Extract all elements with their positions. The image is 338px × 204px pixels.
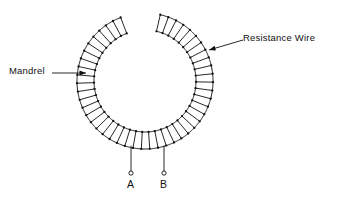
winding-junction-dot: [171, 123, 173, 125]
winding-junction-dot: [212, 81, 214, 83]
winding-junction-dot: [208, 56, 210, 58]
winding-junction-dot: [112, 20, 114, 22]
winding-junction-dot: [149, 148, 151, 150]
wire-turn: [149, 132, 150, 149]
wire-turn: [86, 107, 101, 116]
winding-junction-dot: [95, 127, 97, 129]
wire-turn: [110, 125, 119, 140]
winding-junction-dot: [159, 14, 161, 16]
winding-junction-dot: [123, 126, 125, 128]
winding-junction-dot: [94, 69, 96, 71]
wire-turn: [78, 89, 95, 92]
wire-turn: [77, 83, 94, 84]
winding-junction-dot: [141, 131, 143, 133]
winding-junction-dot: [107, 116, 109, 118]
winding-junction-dot: [189, 29, 191, 31]
winding-junction-dot: [95, 94, 97, 96]
winding-junction-dot: [173, 141, 175, 143]
winding-junction-dot: [181, 115, 183, 117]
winding-junction-dot: [147, 131, 149, 133]
wire-turn: [196, 88, 213, 90]
wire-turn: [174, 25, 184, 39]
winding-junction-dot: [195, 35, 197, 37]
wire-turn: [168, 21, 176, 36]
wire-turn: [99, 31, 110, 44]
winding-junction-dot: [157, 147, 159, 149]
wire-turn: [113, 21, 121, 36]
winding-junction-dot: [98, 57, 100, 59]
wire-turn: [133, 131, 136, 148]
winding-junction-dot: [188, 105, 190, 107]
wire-turn: [194, 94, 210, 98]
winding-junction-dot: [96, 63, 98, 65]
winding-junction-dot: [210, 64, 212, 66]
winding-junction-dot: [77, 65, 79, 67]
winding-junction-dot: [80, 57, 82, 59]
winding-junction-dot: [110, 42, 112, 44]
winding-junction-dot: [192, 62, 194, 64]
wire-turn: [177, 120, 188, 133]
winding-junction-dot: [83, 50, 85, 52]
winding-junction-dot: [161, 32, 163, 34]
wire-turn: [172, 124, 181, 138]
winding-junction-dot: [93, 82, 95, 84]
winding-junction-dot: [77, 90, 79, 92]
wire-turn: [183, 36, 196, 47]
winding-junction-dot: [100, 106, 102, 108]
wire-turn: [156, 15, 160, 32]
wire-turn: [193, 57, 209, 63]
terminal-node-b: [162, 171, 166, 175]
mandrel-arrow-icon: [80, 71, 87, 76]
winding-junction-dot: [101, 52, 103, 54]
winding-junction-dot: [79, 99, 81, 101]
winding-junction-dot: [180, 137, 182, 139]
winding-junction-dot: [135, 130, 137, 132]
winding-junction-dot: [199, 120, 201, 122]
winding-junction-dot: [189, 56, 191, 58]
terminal-node-a: [129, 171, 133, 175]
winding-junction-dot: [193, 93, 195, 95]
wire-turn: [179, 30, 190, 43]
winding-junction-dot: [93, 88, 95, 90]
winding-junction-dot: [124, 145, 126, 147]
winding-junction-dot: [154, 130, 156, 132]
resistance-wire-label: Resistance Wire: [243, 33, 315, 43]
winding-junction-dot: [98, 30, 100, 32]
wire-turn: [189, 106, 204, 114]
wire-turn: [182, 116, 194, 128]
resistance-coil: [76, 14, 214, 150]
winding-junction-dot: [116, 142, 118, 144]
winding-junction-dot: [185, 110, 187, 112]
winding-junction-dot: [176, 119, 178, 121]
wire-turn: [117, 127, 124, 142]
winding-junction-dot: [105, 47, 107, 49]
winding-junction-dot: [182, 24, 184, 26]
winding-junction-dot: [117, 123, 119, 125]
winding-junction-dot: [87, 42, 89, 44]
wire-turn: [96, 117, 108, 129]
wire-turn: [84, 51, 99, 59]
wire-turn: [196, 74, 213, 76]
wire-turn: [141, 132, 142, 149]
winding-junction-dot: [166, 126, 168, 128]
wire-turn: [80, 95, 96, 100]
winding-junction-dot: [165, 144, 167, 146]
wire-turn: [81, 58, 97, 64]
winding-junction-dot: [195, 81, 197, 83]
wire-turn: [91, 112, 105, 122]
winding-junction-dot: [207, 106, 209, 108]
winding-junction-dot: [173, 38, 175, 40]
terminal-a-label: A: [127, 179, 134, 190]
winding-junction-dot: [108, 138, 110, 140]
winding-junction-dot: [120, 35, 122, 37]
mandrel-label: Mandrel: [9, 66, 45, 76]
wire-turn: [103, 121, 114, 134]
winding-junction-dot: [191, 99, 193, 101]
winding-junction-dot: [203, 113, 205, 115]
winding-junction-dot: [194, 87, 196, 89]
winding-junction-dot: [129, 129, 131, 131]
winding-junction-dot: [90, 121, 92, 123]
winding-junction-dot: [194, 68, 196, 70]
wire-turn: [167, 127, 174, 142]
winding-junction-dot: [103, 111, 105, 113]
